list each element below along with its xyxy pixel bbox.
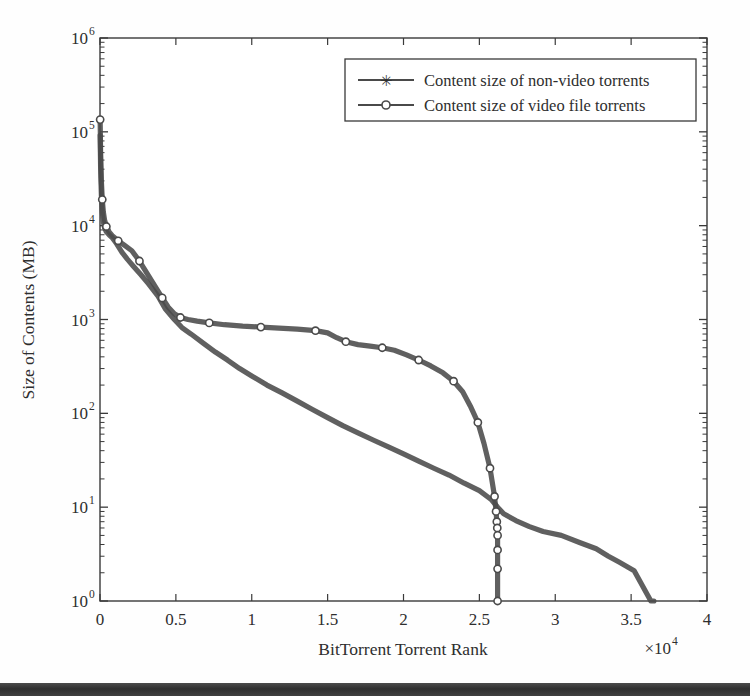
star-icon: ✳ <box>380 73 393 89</box>
scan-artifact-bar <box>0 683 750 696</box>
svg-text:5: 5 <box>89 119 95 131</box>
y-axis-tick-labels: 100101102103104105106 <box>71 25 95 611</box>
svg-text:10: 10 <box>71 29 88 48</box>
x-tick-label: 4 <box>703 610 712 629</box>
y-tick-label: 100 <box>71 588 95 611</box>
y-tick-label: 106 <box>71 25 95 48</box>
svg-text:4: 4 <box>89 213 95 225</box>
x-axis-title: BitTorrent Torrent Rank <box>318 639 488 659</box>
svg-text:10: 10 <box>71 311 88 330</box>
x-tick-label: 0 <box>96 610 105 629</box>
svg-text:6: 6 <box>89 25 95 37</box>
svg-text:10: 10 <box>71 404 88 423</box>
x-tick-label: 3 <box>551 610 560 629</box>
y-tick-label: 102 <box>71 400 95 423</box>
x-tick-label: 2.5 <box>469 610 490 629</box>
svg-text:0: 0 <box>89 588 95 600</box>
chart-figure: 00.511.522.533.54 100101102103104105106 … <box>0 0 750 696</box>
x-axis-multiplier-exponent: 4 <box>672 635 678 647</box>
svg-text:3: 3 <box>89 307 95 319</box>
y-tick-label: 105 <box>71 119 95 142</box>
x-tick-label: 1 <box>248 610 257 629</box>
svg-text:1: 1 <box>89 494 95 506</box>
svg-text:2: 2 <box>89 400 95 412</box>
circle-icon <box>382 101 390 109</box>
x-axis-multiplier: ×10 4 <box>644 635 678 658</box>
y-axis-title: Size of Contents (MB) <box>18 240 38 399</box>
svg-text:10: 10 <box>71 498 88 517</box>
x-tick-label: 2 <box>399 610 408 629</box>
legend-label: Content size of non-video torrents <box>424 71 649 90</box>
x-tick-label: 1.5 <box>317 610 338 629</box>
y-tick-label: 103 <box>71 307 95 330</box>
svg-text:10: 10 <box>71 217 88 236</box>
y-tick-label: 101 <box>71 494 95 517</box>
svg-text:10: 10 <box>71 592 88 611</box>
legend-label: Content size of video file torrents <box>424 96 645 115</box>
chart-legend[interactable]: ✳Content size of non-video torrentsConte… <box>345 59 696 121</box>
svg-text:10: 10 <box>71 123 88 142</box>
x-tick-label: 3.5 <box>621 610 642 629</box>
chart-plot-area: 00.511.522.533.54 100101102103104105106 … <box>0 0 750 696</box>
x-axis-tick-labels: 00.511.522.533.54 <box>96 610 712 629</box>
y-tick-label: 104 <box>71 213 95 236</box>
x-axis-multiplier-base: ×10 <box>644 639 671 658</box>
x-tick-label: 0.5 <box>165 610 186 629</box>
